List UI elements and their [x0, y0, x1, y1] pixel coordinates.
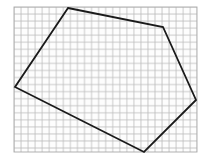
figure-container: Convex pentagon drawn on graph paper	[0, 0, 210, 163]
graph-paper-figure	[0, 0, 210, 163]
graph-paper-grid	[14, 7, 197, 152]
